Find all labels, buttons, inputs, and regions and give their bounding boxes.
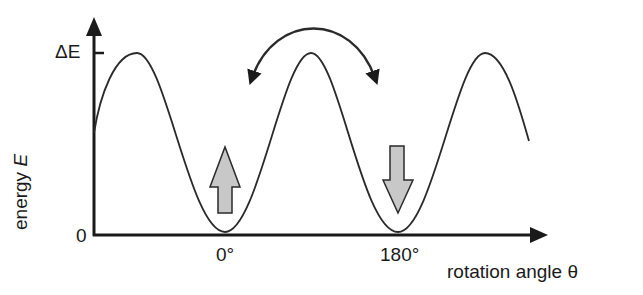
delta-e-label: ΔE xyxy=(55,41,80,63)
x-tick-180: 180° xyxy=(380,244,419,266)
x-axis-arrowhead-icon xyxy=(530,227,548,243)
down-arrow-icon xyxy=(383,146,413,213)
up-arrow-icon xyxy=(210,147,240,213)
y-axis-label-text: energy xyxy=(10,172,31,230)
zero-label: 0 xyxy=(76,225,87,247)
y-axis-arrowhead-icon xyxy=(86,17,102,36)
energy-curve xyxy=(94,53,529,232)
x-axis-label: rotation angle θ xyxy=(447,261,578,283)
y-axis-symbol: E xyxy=(10,154,31,167)
energy-diagram xyxy=(0,0,643,295)
y-axis-label: energy E xyxy=(10,154,32,230)
x-tick-0: 0° xyxy=(216,244,234,266)
